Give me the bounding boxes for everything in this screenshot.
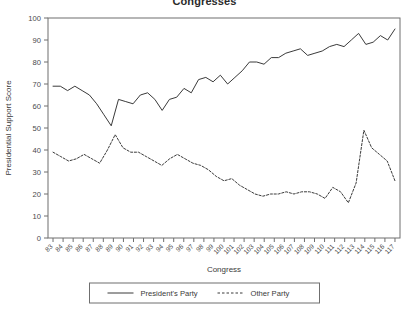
x-tick-label: 97 [184,243,194,253]
y-tick-label: 20 [33,190,41,199]
legend-label: Other Party [251,289,290,298]
chart-title: Congresses [0,0,409,7]
y-tick-label: 100 [28,14,41,23]
y-tick-label: 30 [33,168,41,177]
x-tick-label: 83 [44,243,54,253]
legend-item-other-party[interactable]: Other Party [218,289,290,298]
y-tick-label: 60 [33,102,41,111]
x-tick-label: 86 [74,243,84,253]
x-tick-label: 117 [383,243,396,256]
plot-frame [48,18,400,238]
y-tick-label: 10 [33,212,41,221]
legend-label: President's Party [141,289,198,298]
x-tick-label: 94 [154,243,164,253]
y-tick-label: 90 [33,36,41,45]
x-tick-label: 98 [194,243,204,253]
y-tick-label: 0 [37,234,41,243]
x-axis: 8384858687888990919293949596979899100101… [44,238,396,255]
chart-svg: 0102030405060708090100Presidential Suppo… [0,0,409,311]
x-tick-label: 84 [54,243,64,253]
y-axis: 0102030405060708090100 [28,14,48,243]
y-tick-label: 70 [33,80,41,89]
x-tick-label: 95 [164,243,174,253]
x-tick-label: 89 [104,243,114,253]
x-tick-label: 87 [84,243,94,253]
y-axis-title: Presidential Support Score [4,80,13,176]
x-tick-label: 85 [64,243,74,253]
x-tick-label: 90 [114,243,124,253]
y-tick-label: 80 [33,58,41,67]
x-tick-label: 93 [144,243,154,253]
x-tick-label: 88 [94,243,104,253]
x-tick-label: 96 [174,243,184,253]
x-tick-label: 91 [124,243,134,253]
y-tick-label: 50 [33,124,41,133]
legend-item-presidents-party[interactable]: President's Party [108,289,198,298]
x-tick-label: 92 [134,243,144,253]
y-tick-label: 40 [33,146,41,155]
x-axis-title: Congress [207,265,241,274]
chart-container: Congresses 0102030405060708090100Preside… [0,0,409,311]
